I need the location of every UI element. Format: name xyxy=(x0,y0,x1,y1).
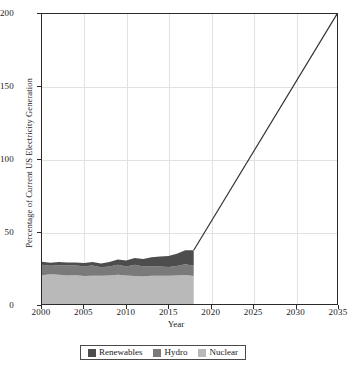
x-tick-mark xyxy=(338,305,339,309)
area-series-nuclear xyxy=(42,274,194,304)
legend-label: Renewables xyxy=(99,348,142,357)
x-tick-mark xyxy=(41,305,42,309)
x-tick-mark xyxy=(253,305,254,309)
x-tick-mark xyxy=(83,305,84,309)
y-tick-label: 150 xyxy=(0,81,14,91)
y-tick-label: 100 xyxy=(0,154,14,164)
legend-label: Nuclear xyxy=(209,348,237,357)
plot-area xyxy=(41,13,338,305)
projection-line xyxy=(194,14,337,250)
legend-entry: Hydro xyxy=(153,348,187,357)
area-series-renewables xyxy=(42,250,194,267)
legend-entry: Nuclear xyxy=(198,348,237,357)
legend-swatch-icon xyxy=(88,349,96,357)
x-tick-mark xyxy=(296,305,297,309)
legend-entry: Renewables xyxy=(88,348,142,357)
x-tick-mark xyxy=(168,305,169,309)
chart-canvas xyxy=(42,14,337,304)
chart-figure: Percentage of Current US Electricity Gen… xyxy=(0,0,352,376)
y-axis-title: Percentage of Current US Electricity Gen… xyxy=(24,48,34,278)
legend-swatch-icon xyxy=(153,349,161,357)
legend-label: Hydro xyxy=(164,348,187,357)
y-tick-label: 50 xyxy=(0,227,14,237)
chart-legend: RenewablesHydroNuclear xyxy=(80,345,246,360)
x-tick-mark xyxy=(126,305,127,309)
y-tick-label: 200 xyxy=(0,8,14,18)
x-axis-title: Year xyxy=(0,319,352,329)
x-tick-label: 2035 xyxy=(318,307,352,317)
legend-swatch-icon xyxy=(198,349,206,357)
y-tick-label: 0 xyxy=(0,300,14,310)
x-tick-mark xyxy=(211,305,212,309)
